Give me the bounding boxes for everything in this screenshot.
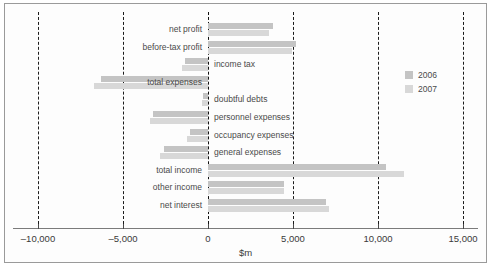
bar-2007-before-tax-profit [208,48,292,54]
legend-item-2006: 2006 [405,68,475,82]
bar-2007-general-expenses [160,153,208,159]
chart-frame: net profitbefore-tax profitincome taxtot… [4,3,487,263]
chart-legend: 2006 2007 [405,68,475,96]
tick-label-0: 0 [205,233,210,244]
category-label-before-tax-profit: before-tax profit [5,42,202,52]
plot-area: net profitbefore-tax profitincome taxtot… [5,4,486,226]
category-label-personnel-expenses: personnel expenses [214,112,290,122]
tick-label--10000: –10,000 [21,233,55,244]
bar-2007-net-interest [208,206,329,212]
category-label-net-profit: net profit [5,24,202,34]
bar-2006-total-income [208,164,386,170]
category-label-occupancy-expenses: occupancy expenses [214,130,293,140]
x-axis-label: $m [5,247,486,258]
bar-2007-occupancy-expenses [187,136,208,142]
bar-2006-net-profit [208,23,273,29]
bar-2006-income-tax [185,58,208,64]
tick-label--5000: –5,000 [108,233,137,244]
bar-2006-doubtful-debts [203,93,208,99]
bar-2007-total-income [208,171,404,177]
category-label-other-income: other income [5,182,202,192]
tick-label-10000: 10,000 [363,233,392,244]
tick--5000 [123,224,124,229]
bar-2007-personnel-expenses [150,118,208,124]
bar-2006-personnel-expenses [153,111,208,117]
tick-10000 [378,224,379,229]
bar-2007-other-income [208,188,284,194]
bar-2007-income-tax [182,65,208,71]
tick-label-5000: 5,000 [281,233,305,244]
category-label-net-interest: net interest [5,200,202,210]
category-label-total-expenses: total expenses [5,77,202,87]
tick-label-15000: 15,000 [448,233,477,244]
legend-swatch-2007 [405,85,413,93]
bar-2006-occupancy-expenses [190,129,208,135]
bar-2006-before-tax-profit [208,41,296,47]
legend-swatch-2006 [405,71,413,79]
bar-2006-net-interest [208,199,326,205]
legend-label-2007: 2007 [418,84,437,94]
legend-item-2007: 2007 [405,82,475,96]
legend-label-2006: 2006 [418,70,437,80]
category-label-income-tax: income tax [214,59,255,69]
bar-2007-net-profit [208,30,269,36]
category-label-total-income: total income [5,165,202,175]
tick-15000 [463,224,464,229]
tick--10000 [38,224,39,229]
tick-5000 [293,224,294,229]
bar-2006-general-expenses [164,146,208,152]
bar-2006-other-income [208,181,284,187]
bar-2007-doubtful-debts [202,100,208,106]
x-axis-line [13,228,478,229]
category-label-general-expenses: general expenses [214,147,281,157]
category-label-doubtful-debts: doubtful debts [214,94,267,104]
tick-0 [208,224,209,229]
